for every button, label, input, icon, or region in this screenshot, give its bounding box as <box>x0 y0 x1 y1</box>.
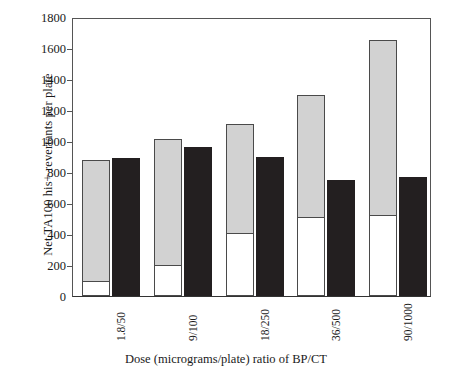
bar-stacked-white <box>82 281 110 297</box>
x-tick-label: 90/1000 <box>402 303 414 341</box>
bar-stacked-white <box>369 215 397 296</box>
bar-black <box>399 177 427 296</box>
plot-area <box>72 18 431 297</box>
y-tick-label: 1400 <box>0 73 66 88</box>
x-tick-label: 36/500 <box>330 309 342 341</box>
x-tick-label: 9/100 <box>187 315 199 341</box>
y-tick-label: 1000 <box>0 135 66 150</box>
bar-stacked-white <box>226 233 254 296</box>
bar-stacked-gray <box>82 160 110 296</box>
y-tick-label: 800 <box>0 166 66 181</box>
y-tick-label: 1200 <box>0 104 66 119</box>
chart-figure: Net TA100 his+ revertants per plate 0200… <box>0 0 452 374</box>
bar-black <box>327 180 355 296</box>
y-tick-label: 1800 <box>0 11 66 26</box>
x-tick-label: 1.8/50 <box>115 312 127 341</box>
x-tick-label: 18/250 <box>259 309 271 341</box>
bar-black <box>112 158 140 296</box>
x-axis-title: Dose (micrograms/plate) ratio of BP/CT <box>0 352 452 367</box>
y-tick-label: 200 <box>0 259 66 274</box>
y-tick-label: 0 <box>0 290 66 305</box>
bar-stacked-white <box>297 217 325 296</box>
y-tick-label: 600 <box>0 197 66 212</box>
bar-black <box>256 157 284 297</box>
y-tick-label: 400 <box>0 228 66 243</box>
y-tick-label: 1600 <box>0 42 66 57</box>
bar-black <box>184 147 212 296</box>
bar-stacked-white <box>154 265 182 296</box>
